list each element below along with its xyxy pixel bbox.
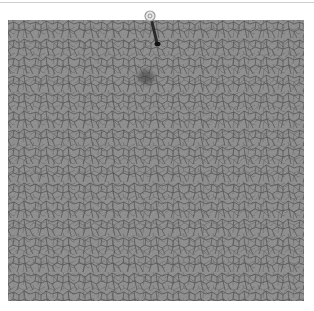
top-rule [0, 2, 314, 3]
dark-spot [138, 70, 154, 84]
pin-marker [140, 5, 170, 50]
cracked-mud-surface [8, 20, 304, 301]
crack-pattern [8, 20, 304, 301]
